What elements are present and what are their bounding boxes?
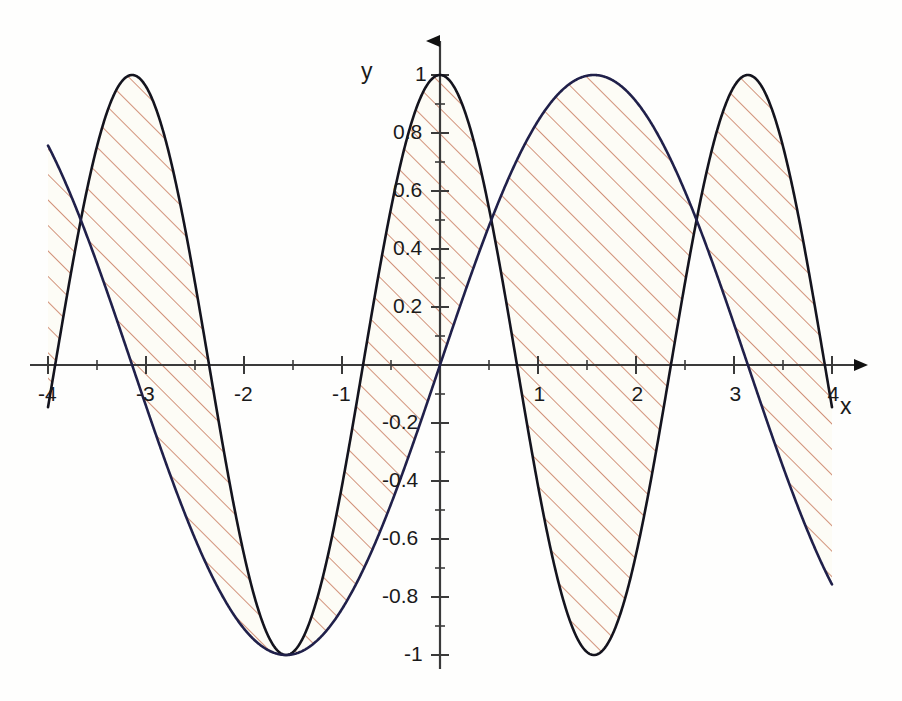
x-tick-label: 3 [730, 382, 742, 406]
x-axis-label: x [840, 393, 852, 420]
y-tick-label: -0.2 [382, 410, 418, 434]
chart-canvas: -4-3-2-11234-1-0.8-0.6-0.4-0.20.20.40.60… [0, 0, 902, 701]
x-tick-label: 2 [632, 382, 644, 406]
y-tick-label: -0.6 [382, 526, 418, 550]
x-tick-label: -3 [136, 382, 155, 406]
y-tick-label: 0.4 [393, 236, 422, 260]
shaded-band [48, 146, 81, 408]
x-tick-label: -4 [38, 382, 57, 406]
x-tick-label: 4 [828, 382, 840, 406]
y-tick-label: -0.4 [382, 468, 418, 492]
y-tick-label: 0.8 [393, 120, 422, 144]
y-tick-label: 1 [415, 62, 427, 86]
y-tick-label: -0.8 [382, 584, 418, 608]
y-tick-label: 0.6 [393, 178, 422, 202]
x-tick-label: 1 [534, 382, 546, 406]
y-tick-label: 0.2 [393, 294, 422, 318]
x-tick-label: -2 [234, 382, 253, 406]
plot-svg [0, 0, 902, 701]
y-axis-label: y [361, 58, 373, 85]
y-tick-label: -1 [404, 642, 423, 666]
shaded-band [697, 75, 832, 584]
x-tick-label: -1 [332, 382, 351, 406]
